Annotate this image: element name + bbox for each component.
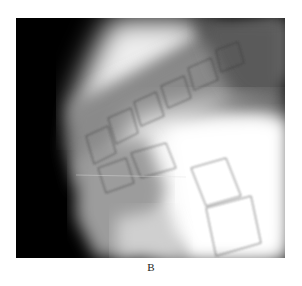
figure-label: B: [0, 261, 302, 273]
radiograph-rendering: [16, 18, 285, 258]
radiograph-image: [16, 18, 285, 258]
